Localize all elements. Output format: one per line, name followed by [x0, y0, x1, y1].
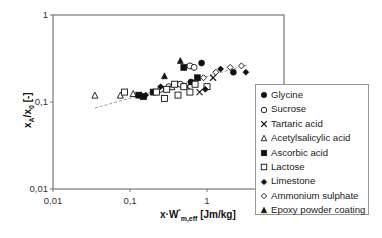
filled-triangle-marker-icon	[260, 206, 268, 214]
y-tick-label: 0,1	[35, 96, 48, 107]
data-point	[238, 63, 244, 69]
legend-item: Limestone	[260, 174, 368, 188]
data-point	[197, 89, 203, 95]
plot-area	[53, 15, 284, 189]
data-point	[181, 84, 187, 90]
plot-frame	[53, 15, 284, 189]
legend-item: Acetylsalicylic acid	[260, 131, 368, 145]
data-point	[218, 66, 224, 72]
legend-label: Ammonium sulphate	[271, 189, 358, 203]
x-tick-label: 1	[204, 195, 209, 206]
data-point	[175, 92, 181, 98]
data-point	[200, 75, 206, 81]
filled-circle-marker-icon	[260, 91, 268, 99]
open-diamond-marker-icon	[260, 192, 268, 200]
data-point	[172, 81, 178, 87]
legend-label: Tartaric acid	[271, 117, 323, 131]
legend-item: Lactose	[260, 160, 368, 174]
legend-label: Epoxy powder coating	[271, 203, 365, 217]
legend-item: Ammonium sulphate	[260, 189, 368, 203]
x-tick-label: 0,01	[44, 195, 63, 206]
data-point	[92, 92, 98, 98]
legend-label: Limestone	[271, 174, 315, 188]
data-point	[153, 89, 159, 95]
open-circle-marker-icon	[260, 106, 268, 114]
data-point	[213, 69, 219, 75]
data-point	[230, 69, 236, 75]
x-marker-icon	[260, 120, 268, 128]
data-point	[181, 64, 187, 70]
legend-item: Sucrose	[260, 102, 368, 116]
series-lactose	[122, 81, 210, 101]
filled-diamond-marker-icon	[260, 178, 268, 186]
filled-square-marker-icon	[260, 149, 268, 157]
data-point	[122, 89, 128, 95]
data-points	[92, 57, 249, 101]
open-triangle-marker-icon	[260, 134, 268, 142]
x-tick-label: 0,1	[123, 195, 136, 206]
legend-label: Acetylsalicylic acid	[271, 131, 350, 145]
x-axis-title: x·W*m,eff [Jm/kg]	[160, 208, 236, 223]
y-tick-label: 0,01	[30, 183, 49, 194]
data-point	[194, 75, 200, 81]
data-point	[187, 89, 193, 95]
y-axis-title: xA/x0 [-]	[22, 92, 35, 128]
y-tick-label: 1	[43, 9, 48, 20]
legend-item: Epoxy powder coating	[260, 203, 368, 217]
data-point	[161, 73, 167, 79]
axis-ticks: 0,010,111010,10,01	[30, 9, 290, 206]
legend-item: Glycine	[260, 88, 368, 102]
data-point	[177, 57, 183, 63]
legend-label: Ascorbic acid	[271, 146, 328, 160]
legend: GlycineSucroseTartaric acidAcetylsalicyl…	[255, 84, 369, 215]
data-point	[210, 75, 216, 81]
open-square-marker-icon	[260, 163, 268, 171]
data-point	[243, 69, 249, 75]
data-point	[199, 60, 205, 66]
data-point	[192, 81, 198, 87]
legend-label: Lactose	[271, 160, 305, 174]
data-point	[161, 95, 167, 101]
legend-item: Tartaric acid	[260, 117, 368, 131]
legend-label: Sucrose	[271, 102, 306, 116]
data-point	[164, 86, 170, 92]
data-point	[191, 64, 197, 70]
legend-label: Glycine	[271, 88, 303, 102]
data-point	[130, 91, 136, 97]
legend-item: Ascorbic acid	[260, 146, 368, 160]
